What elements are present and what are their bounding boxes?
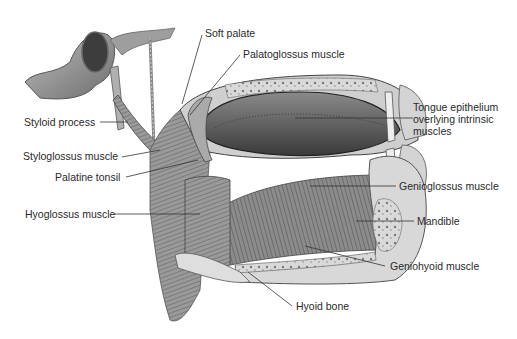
label-mandible: Mandible bbox=[417, 215, 460, 227]
label-styloid-process: Styloid process bbox=[24, 116, 95, 128]
label-palatine-tonsil: Palatine tonsil bbox=[55, 171, 120, 183]
label-styloglossus: Styloglossus muscle bbox=[23, 150, 118, 162]
label-soft-palate: Soft palate bbox=[205, 27, 255, 39]
label-genioglossus: Genioglossus muscle bbox=[399, 180, 499, 192]
label-tongue-epithelium: Tongue epithelium overlying intrinsic mu… bbox=[413, 101, 508, 137]
label-hyoglossus: Hyoglossus muscle bbox=[25, 208, 115, 220]
genioglossus-fan bbox=[225, 175, 385, 265]
label-palatoglossus: Palatoglossus muscle bbox=[243, 48, 345, 60]
label-hyoid-bone: Hyoid bone bbox=[296, 300, 349, 312]
anatomy-figure: Soft palate Palatoglossus muscle Styloid… bbox=[0, 0, 517, 339]
label-geniohyoid: Geniohyoid muscle bbox=[390, 260, 479, 272]
